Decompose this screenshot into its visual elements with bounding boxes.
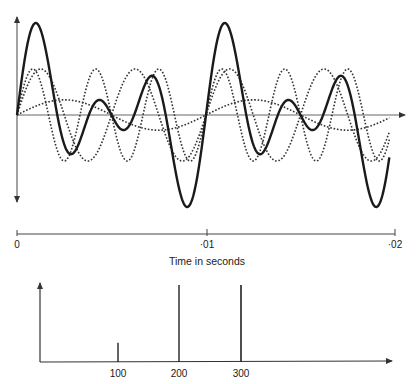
tick-label-02: ·02	[388, 239, 403, 250]
spectrum-label-300: 300	[233, 368, 250, 379]
time-axis-title: Time in seconds	[169, 255, 245, 267]
spectrum-plot: 100 200 300	[40, 283, 392, 379]
tick-label-01: ·01	[200, 239, 215, 250]
time-axis: 0 ·01 ·02 Time in seconds	[14, 229, 402, 267]
spectrum-label-100: 100	[110, 368, 127, 379]
spectrum-x-axis	[40, 361, 392, 362]
spectrum-label-200: 200	[171, 368, 188, 379]
waveform-plot	[17, 17, 405, 207]
figure: 0 ·01 ·02 Time in seconds 100 200 300	[0, 0, 418, 384]
tick-label-0: 0	[14, 239, 20, 250]
